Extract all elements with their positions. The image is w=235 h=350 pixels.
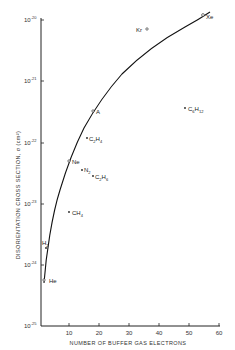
svg-text:He: He (49, 278, 57, 284)
svg-text:Kr: Kr (136, 27, 142, 33)
data-points (43, 14, 205, 282)
point-c6h12 (184, 107, 186, 109)
x-axis-title: NUMBER OF BUFFER GAS ELECTRONS (70, 340, 187, 346)
point-c2h4 (86, 137, 88, 139)
chart: 10-20 10-21 10-22 10-23 10-24 10-25 10 2… (0, 0, 235, 350)
svg-text:50: 50 (186, 330, 193, 336)
svg-text:10-25: 10-25 (24, 321, 37, 329)
svg-text:C6H12: C6H12 (188, 106, 204, 114)
svg-text:10-21: 10-21 (24, 76, 37, 84)
svg-text:CH4: CH4 (72, 210, 84, 218)
svg-text:10-24: 10-24 (24, 260, 37, 268)
svg-text:10-23: 10-23 (24, 199, 37, 207)
point-xe (202, 14, 205, 17)
y-tick-labels: 10-20 10-21 10-22 10-23 10-24 10-25 (24, 15, 37, 329)
svg-text:20: 20 (96, 330, 103, 336)
point-labels: He H2 CH4 Ne N2 C2H6 C2H4 A Kr C6H12 Xe (42, 14, 214, 284)
fit-curve (44, 12, 210, 283)
svg-text:60: 60 (216, 330, 223, 336)
svg-text:10-22: 10-22 (24, 138, 37, 146)
x-tick-labels: 10 20 30 40 50 60 (66, 330, 223, 336)
svg-text:Xe: Xe (206, 14, 214, 20)
point-c2h6 (92, 175, 94, 177)
point-ne (68, 160, 70, 162)
svg-text:30: 30 (126, 330, 133, 336)
y-axis-title: DISORIENTATION CROSS SECTION, σ (cm²) (15, 131, 21, 260)
svg-text:10-20: 10-20 (24, 15, 37, 23)
point-a (92, 110, 94, 112)
svg-text:40: 40 (156, 330, 163, 336)
point-kr (146, 28, 148, 30)
svg-text:Ne: Ne (72, 159, 80, 165)
svg-text:C2H6: C2H6 (95, 174, 109, 182)
point-n2 (81, 169, 83, 171)
point-ch4 (68, 211, 70, 213)
svg-text:H2: H2 (42, 240, 49, 248)
svg-text:N2: N2 (84, 167, 91, 175)
svg-text:A: A (96, 109, 100, 115)
svg-text:10: 10 (66, 330, 73, 336)
point-he (43, 279, 45, 281)
svg-text:C2H4: C2H4 (89, 136, 103, 144)
